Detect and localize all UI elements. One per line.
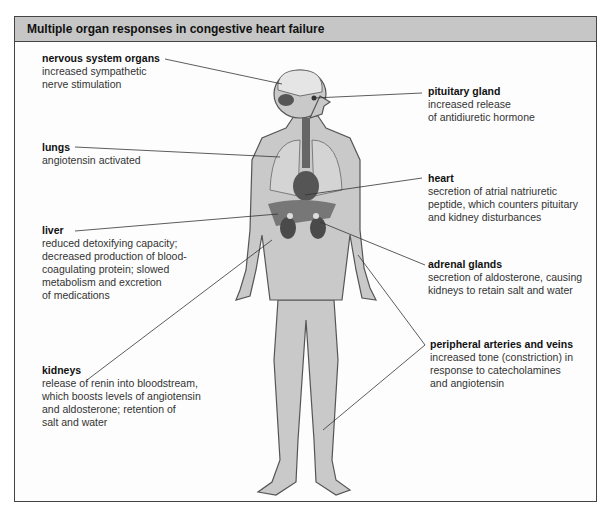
label-liver: liver reduced detoxifying capacity; decr… bbox=[42, 224, 187, 302]
label-heart: heart secretion of atrial natriuretic pe… bbox=[428, 172, 578, 224]
label-pituitary: pituitary gland increased release of ant… bbox=[428, 85, 535, 124]
label-title: heart bbox=[428, 172, 578, 185]
label-title: kidneys bbox=[42, 364, 201, 377]
label-desc: secretion of aldosterone, causing kidney… bbox=[428, 271, 582, 297]
label-desc: release of renin into bloodstream, which… bbox=[42, 377, 201, 429]
label-desc: increased tone (constriction) in respons… bbox=[430, 351, 573, 390]
label-adrenal-glands: adrenal glands secretion of aldosterone,… bbox=[428, 258, 582, 297]
label-lungs: lungs angiotensin activated bbox=[42, 141, 141, 167]
label-title: nervous system organs bbox=[42, 52, 160, 65]
leader-nervous bbox=[165, 59, 282, 84]
label-title: lungs bbox=[42, 141, 141, 154]
label-desc: angiotensin activated bbox=[42, 154, 141, 167]
trachea-icon bbox=[302, 118, 310, 168]
label-desc: secretion of atrial natriuretic peptide,… bbox=[428, 185, 578, 224]
label-desc: reduced detoxifying capacity; decreased … bbox=[42, 237, 187, 302]
label-title: peripheral arteries and veins bbox=[430, 338, 573, 351]
label-title: liver bbox=[42, 224, 187, 237]
label-title: adrenal glands bbox=[428, 258, 582, 271]
label-desc: increased release of antidiuretic hormon… bbox=[428, 98, 535, 124]
label-nervous-system: nervous system organs increased sympathe… bbox=[42, 52, 160, 91]
label-peripheral-vessels: peripheral arteries and veins increased … bbox=[430, 338, 573, 390]
kidney-left-icon bbox=[280, 217, 296, 239]
kidney-right-icon bbox=[310, 217, 326, 239]
heart-icon bbox=[293, 171, 319, 201]
label-title: pituitary gland bbox=[428, 85, 535, 98]
label-desc: increased sympathetic nerve stimulation bbox=[42, 65, 160, 91]
label-kidneys: kidneys release of renin into bloodstrea… bbox=[42, 364, 201, 429]
adrenal-right-icon bbox=[313, 213, 319, 219]
adrenal-left-icon bbox=[287, 213, 293, 219]
leader-pituitary bbox=[314, 93, 422, 98]
